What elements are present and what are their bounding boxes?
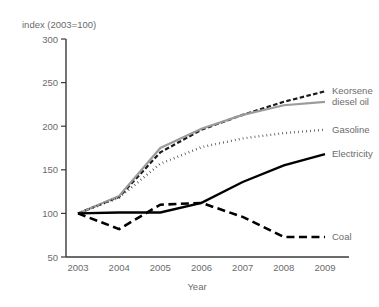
legend-label: Gasoline — [332, 124, 370, 135]
x-axis-tick-label: 2003 — [67, 262, 88, 273]
chart-container: index (2003=100) 50100150200250300 20032… — [0, 0, 379, 307]
legend-label: Keorsene — [332, 85, 373, 96]
y-axis-unit-label-group: index (2003=100) — [22, 19, 96, 30]
y-axis-tick-label: 300 — [42, 34, 58, 45]
series-line — [78, 102, 325, 214]
x-axis-tick-label: 2009 — [314, 262, 335, 273]
x-axis-title: Year — [187, 281, 206, 292]
legend-label: Electricity — [332, 148, 373, 159]
x-axis-tick-label: 2006 — [191, 262, 212, 273]
series-line — [78, 130, 325, 214]
legend-label: diesel oil — [332, 96, 369, 107]
x-axis-tick-label: 2008 — [273, 262, 294, 273]
series-line — [78, 203, 325, 237]
y-axis: 50100150200250300 — [42, 34, 66, 263]
y-axis-tick-label: 200 — [42, 121, 58, 132]
y-axis-tick-label: 50 — [47, 252, 58, 263]
x-axis-tick-label: 2005 — [150, 262, 171, 273]
chart-legend: Keorsenediesel oilGasolineElectricityCoa… — [332, 85, 373, 242]
x-axis: 2003200420052006200720082009 — [67, 262, 335, 273]
legend-label: Coal — [332, 231, 352, 242]
series-line — [78, 91, 325, 213]
y-axis-tick-label: 100 — [42, 208, 58, 219]
line-chart: index (2003=100) 50100150200250300 20032… — [0, 0, 379, 307]
y-axis-tick-label: 250 — [42, 77, 58, 88]
y-axis-unit-label: index (2003=100) — [22, 19, 96, 30]
series-line — [78, 154, 325, 213]
y-axis-tick-label: 150 — [42, 164, 58, 175]
x-axis-tick-label: 2007 — [232, 262, 253, 273]
x-axis-tick-label: 2004 — [109, 262, 130, 273]
series-lines — [78, 91, 325, 237]
